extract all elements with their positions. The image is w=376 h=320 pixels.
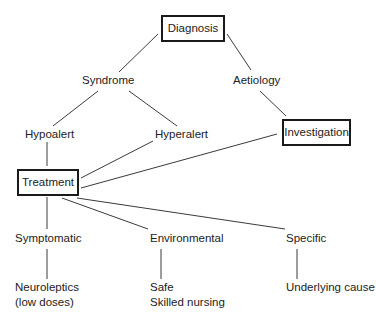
node-hyperalert: Hyperalert (155, 127, 208, 142)
edge-syndrome-hypoalert (53, 91, 98, 126)
node-symptomatic: Symptomatic (15, 231, 81, 246)
edge-aetiology-investigation (260, 91, 286, 116)
node-underlying-cause: Underlying cause (286, 280, 375, 295)
node-diagnosis: Diagnosis (161, 15, 225, 42)
edge-diagnosis-syndrome (119, 34, 158, 72)
neuroleptics-label: Neuroleptics (15, 280, 79, 295)
node-treatment: Treatment (17, 169, 79, 196)
delirium-management-diagram: Diagnosis Syndrome Aetiology Hypoalert H… (0, 0, 376, 320)
edge-treatment-specific (77, 198, 285, 229)
skilled-nursing-label: Skilled nursing (150, 295, 225, 310)
node-hypoalert: Hypoalert (25, 127, 74, 142)
edge-diagnosis-aetiology (227, 34, 251, 70)
edge-hyperalert-treatment (81, 141, 153, 178)
node-environmental: Environmental (150, 231, 224, 246)
diagram-edges (0, 0, 376, 320)
edge-syndrome-hyperalert (129, 91, 177, 126)
safe-label: Safe (150, 280, 225, 295)
node-safe-nursing: Safe Skilled nursing (150, 280, 225, 310)
node-aetiology: Aetiology (233, 73, 280, 88)
node-syndrome: Syndrome (82, 73, 134, 88)
node-specific: Specific (286, 231, 326, 246)
node-investigation: Investigation (282, 119, 351, 146)
low-doses-label: (low doses) (15, 295, 79, 310)
node-neuroleptics: Neuroleptics (low doses) (15, 280, 79, 310)
edge-investigation-treatment (81, 134, 277, 188)
